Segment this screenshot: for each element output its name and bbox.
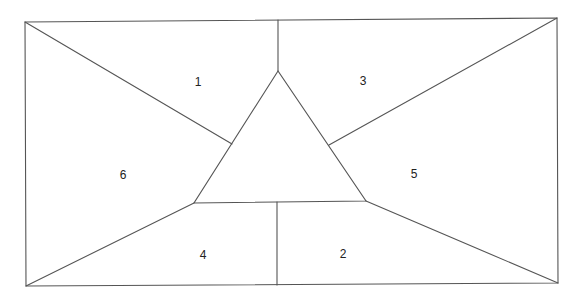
region-label-1: 1 [195,75,202,89]
partition-diagram: 1 3 6 5 4 2 [0,0,585,298]
outer-boundary [25,18,558,286]
region-label-2: 2 [340,247,347,261]
region-label-6: 6 [120,168,127,182]
region-label-5: 5 [411,167,418,181]
bottom-right-diagonal [366,201,558,283]
bottom-left-diagonal [26,203,194,286]
region-label-3: 3 [360,74,367,88]
region-label-4: 4 [200,248,207,262]
